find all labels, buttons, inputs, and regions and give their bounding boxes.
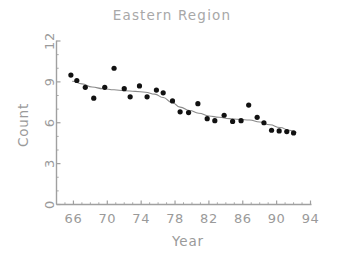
data-point xyxy=(161,90,166,95)
data-point xyxy=(261,120,266,125)
data-point xyxy=(122,86,127,91)
data-point xyxy=(91,96,96,101)
data-point xyxy=(83,85,88,90)
data-point xyxy=(291,130,296,135)
data-point xyxy=(205,116,210,121)
data-point xyxy=(195,101,200,106)
x-tick-label: 94 xyxy=(302,211,320,226)
data-points-group xyxy=(68,66,296,136)
data-point xyxy=(111,66,116,71)
axes-group xyxy=(57,41,312,205)
chart-container: Eastern Region 6670747882869094 036912 Y… xyxy=(0,0,344,262)
x-tick-label: 74 xyxy=(132,211,150,226)
y-tick-label: 3 xyxy=(42,159,57,168)
data-point xyxy=(178,109,183,114)
data-point xyxy=(284,129,289,134)
data-point xyxy=(137,83,142,88)
data-point xyxy=(68,72,73,77)
x-tick-label: 90 xyxy=(268,211,286,226)
data-point xyxy=(255,115,260,120)
x-tick-label: 70 xyxy=(98,211,116,226)
data-point xyxy=(170,98,175,103)
y-tick-label: 9 xyxy=(42,77,57,86)
y-axis-label: Count xyxy=(15,103,31,147)
x-tick-label: 82 xyxy=(200,211,218,226)
y-axis-ticks: 036912 xyxy=(42,32,61,209)
data-point xyxy=(246,102,251,107)
data-point xyxy=(102,85,107,90)
data-point xyxy=(277,128,282,133)
x-axis-label: Year xyxy=(171,233,204,249)
data-point xyxy=(222,113,227,118)
data-point xyxy=(74,78,79,83)
data-point xyxy=(230,119,235,124)
data-point xyxy=(212,118,217,123)
y-tick-label: 0 xyxy=(42,200,57,209)
x-tick-label: 66 xyxy=(65,211,83,226)
chart-title: Eastern Region xyxy=(113,7,232,23)
data-point xyxy=(238,118,243,123)
y-tick-label: 12 xyxy=(42,32,57,50)
chart-title-group: Eastern Region xyxy=(113,7,232,23)
x-tick-label: 78 xyxy=(166,211,184,226)
data-point xyxy=(144,94,149,99)
data-point xyxy=(186,110,191,115)
scatter-chart: Eastern Region 6670747882869094 036912 Y… xyxy=(0,0,344,262)
y-tick-label: 6 xyxy=(42,118,57,127)
data-point xyxy=(128,94,133,99)
data-point xyxy=(269,128,274,133)
data-point xyxy=(154,87,159,92)
x-tick-label: 86 xyxy=(234,211,252,226)
